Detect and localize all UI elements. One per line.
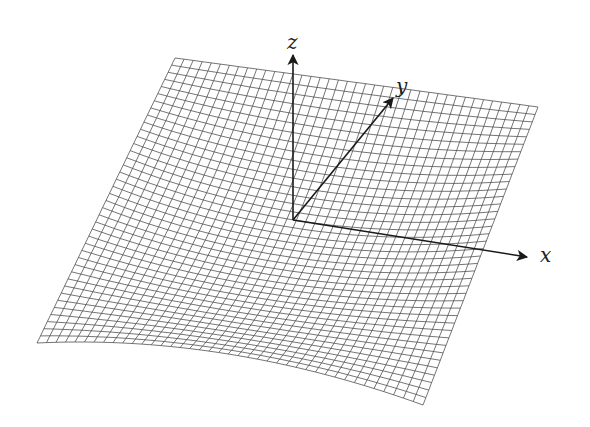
saddle-surface-figure: [0, 0, 590, 427]
z-axis-label: z: [287, 30, 298, 54]
surface-mesh: [37, 58, 538, 405]
x-axis-label: x: [540, 243, 551, 267]
y-axis-label: y: [396, 74, 407, 98]
